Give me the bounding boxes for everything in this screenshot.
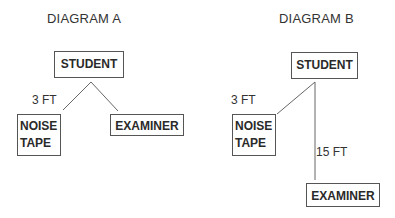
noise-tape-label-line1: NOISE: [20, 119, 58, 133]
noise-tape-box: NOISE TAPE: [232, 114, 276, 156]
student-box: STUDENT: [291, 52, 358, 79]
distance-label-noise: 3 FT: [231, 94, 256, 106]
examiner-box: EXAMINER: [306, 183, 380, 207]
line-a-student-examiner: [91, 82, 118, 111]
student-label: STUDENT: [61, 57, 118, 71]
line-b-student-noise: [277, 82, 315, 114]
distance-label-noise: 3 FT: [32, 94, 57, 106]
distance-label-examiner: 15 FT: [316, 146, 347, 158]
examiner-box: EXAMINER: [110, 114, 184, 136]
noise-tape-label-line2: TAPE: [20, 136, 58, 150]
line-a-student-noise: [63, 82, 91, 110]
noise-tape-box: NOISE TAPE: [17, 114, 61, 156]
examiner-label: EXAMINER: [311, 189, 374, 203]
diagram-b-title: DIAGRAM B: [279, 12, 354, 25]
diagram-a-title: DIAGRAM A: [47, 12, 121, 25]
noise-tape-label-line1: NOISE: [235, 119, 273, 133]
student-label: STUDENT: [296, 58, 353, 72]
student-box: STUDENT: [54, 51, 124, 78]
noise-tape-label-line2: TAPE: [235, 136, 273, 150]
examiner-label: EXAMINER: [115, 119, 178, 133]
